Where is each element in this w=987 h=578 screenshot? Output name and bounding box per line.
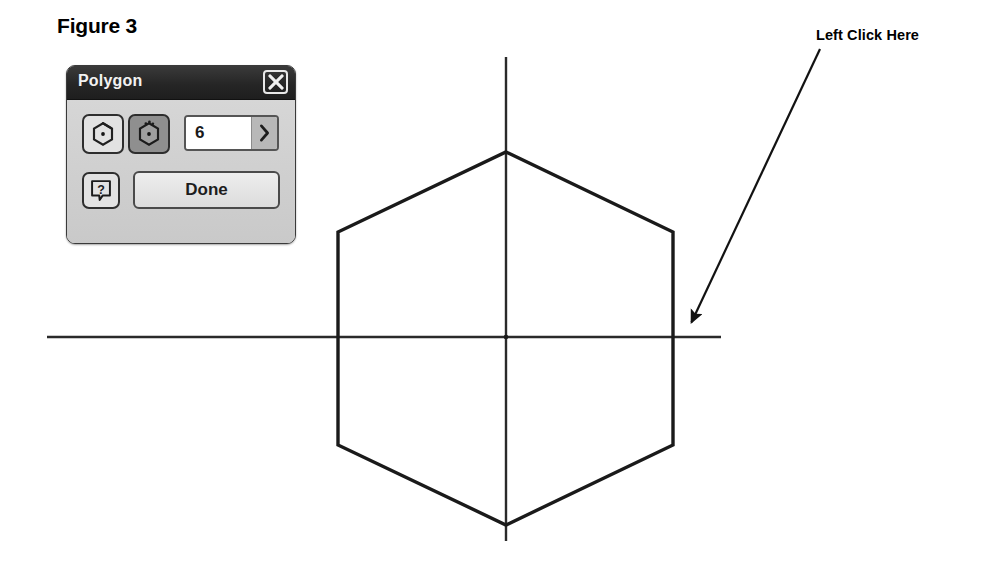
question-help-icon: ? (84, 174, 118, 207)
hexagon-inscribed-icon (84, 116, 122, 152)
figure-canvas: Figure 3 Left Click Here Polygon (0, 0, 987, 578)
polygon-dialog[interactable]: Polygon (66, 65, 296, 244)
hexagon-circumscribed-icon (130, 116, 168, 152)
chevron-right-icon (252, 117, 277, 149)
center-point (504, 335, 509, 340)
close-icon[interactable] (263, 70, 288, 94)
arrow-down-left-icon (692, 49, 820, 322)
sides-stepper-button[interactable] (251, 117, 277, 149)
annotation-label: Left Click Here (816, 27, 919, 43)
dialog-body: ? Done (67, 100, 295, 244)
dialog-title: Polygon (78, 72, 143, 90)
circumscribed-polygon-button[interactable] (128, 114, 170, 154)
done-button[interactable]: Done (133, 171, 280, 209)
sides-input[interactable] (186, 117, 254, 149)
inscribed-polygon-button[interactable] (82, 114, 124, 154)
sides-field[interactable] (184, 115, 279, 151)
dialog-titlebar[interactable]: Polygon (67, 66, 295, 100)
help-button[interactable]: ? (82, 172, 120, 209)
svg-text:?: ? (97, 183, 105, 197)
